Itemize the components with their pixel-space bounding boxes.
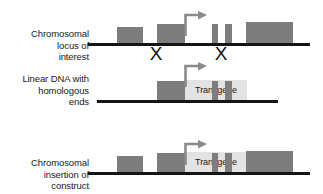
feature-box-exon-3-narrow-a — [212, 153, 218, 172]
row-chromosomal-insertion: Chromosomal insertion of construct Trans… — [0, 0, 323, 194]
feature-box-exon-1 — [117, 156, 143, 172]
feature-box-exon-3-narrow-b — [225, 153, 232, 172]
feature-box-exon-4 — [246, 151, 293, 172]
feature-box-exon-2 — [157, 153, 185, 172]
recombination-diagram: Chromosomal locus of interest X X Linear… — [0, 0, 323, 194]
row-label-chromosomal-insertion: Chromosomal insertion of construct — [3, 157, 89, 192]
promoter-arrow-icon — [183, 140, 211, 166]
insertion-backbone-line — [88, 172, 310, 175]
